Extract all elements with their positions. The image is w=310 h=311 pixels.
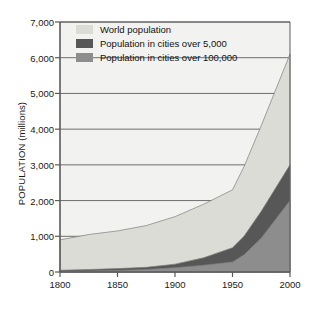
legend-swatch [76,25,93,34]
x-axis-tick-label: 1900 [164,279,185,290]
legend-label: Population in cities over 5,000 [100,38,227,49]
x-axis-tick-label: 1850 [107,279,128,290]
legend-swatch [76,53,93,62]
population-area-chart: POPULATION (millions) 01,0002,0003,0004,… [0,0,310,311]
legend-label: Population in cities over 100,000 [100,52,237,63]
x-axis-tick-label: 1800 [49,279,70,290]
legend-swatch [76,39,93,48]
x-axis-tick-label: 1950 [222,279,243,290]
x-axis-tick-label: 2000 [279,279,300,290]
legend-label: World population [100,24,171,35]
